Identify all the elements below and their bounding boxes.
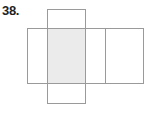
face-front — [48, 29, 86, 84]
prism-net-diagram — [0, 0, 151, 115]
face-bottom — [48, 84, 86, 104]
face-back — [106, 29, 144, 84]
face-left — [28, 29, 48, 84]
face-right — [86, 29, 106, 84]
face-top — [48, 10, 86, 29]
